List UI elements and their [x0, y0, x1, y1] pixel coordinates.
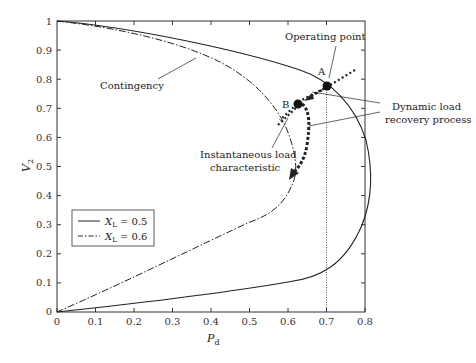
x-tick-label: 0 — [54, 316, 60, 327]
instantaneous-label-line2: characteristic — [210, 162, 281, 173]
point-b-marker — [294, 100, 303, 109]
y-tick-label: 0.4 — [36, 190, 52, 201]
y-tick-label: 0.5 — [36, 161, 52, 172]
x-tick-label: 0.6 — [280, 316, 296, 327]
y-tick-label: 0.7 — [36, 103, 52, 114]
arrowhead-recovery-down — [289, 168, 299, 180]
x-tick-label: 0.4 — [203, 316, 219, 327]
y-tick-label: 1 — [46, 16, 52, 27]
y-tick-label: 0.6 — [36, 132, 52, 143]
pv-curve-chart: 0 0.1 0.2 0.3 0.4 0.5 0.6 0.7 0.8 0 0.1 … — [0, 0, 476, 363]
y-tick-label: 0.2 — [36, 248, 52, 259]
y-tick-labels: 0 0.1 0.2 0.3 0.4 0.5 0.6 0.7 0.8 0.9 1 — [36, 16, 52, 317]
dynamic-recovery-leader-1 — [312, 92, 380, 103]
point-a-marker — [323, 82, 332, 91]
dynamic-recovery-label-line1: Dynamic load — [392, 101, 462, 112]
operating-point-label: Operating point — [285, 31, 366, 42]
x-tick-label: 0.5 — [242, 316, 258, 327]
x-tick-label: 0.3 — [165, 316, 181, 327]
y-tick-label: 0.8 — [36, 74, 52, 85]
y-tick-label: 0 — [46, 306, 52, 317]
x-tick-label: 0.1 — [88, 316, 104, 327]
y-tick-label: 0.9 — [36, 45, 52, 56]
operating-point-leader — [329, 46, 336, 78]
y-axis-title: V2 — [20, 159, 35, 172]
y-tick-label: 0.1 — [36, 277, 52, 288]
contingency-label: Contingency — [100, 80, 164, 91]
contingency-leader — [158, 58, 196, 79]
x-tick-label: 0.2 — [126, 316, 142, 327]
point-b-label: B — [282, 99, 289, 110]
dynamic-recovery-leader-2 — [309, 112, 380, 126]
x-axis-title: Pd — [206, 332, 220, 347]
point-a-label: A — [317, 66, 326, 77]
x-tick-label: 0.8 — [357, 316, 373, 327]
instantaneous-leader — [272, 118, 288, 148]
x-tick-labels: 0 0.1 0.2 0.3 0.4 0.5 0.6 0.7 0.8 — [54, 316, 373, 327]
dynamic-recovery-from-b — [294, 104, 309, 172]
legend: XL = 0.5 XL = 0.6 — [72, 210, 154, 246]
dynamic-recovery-label-line2: recovery process — [385, 114, 471, 125]
y-tick-label: 0.3 — [36, 219, 52, 230]
instantaneous-label-line1: Instantaneous load — [200, 149, 297, 160]
x-tick-label: 0.7 — [319, 316, 335, 327]
